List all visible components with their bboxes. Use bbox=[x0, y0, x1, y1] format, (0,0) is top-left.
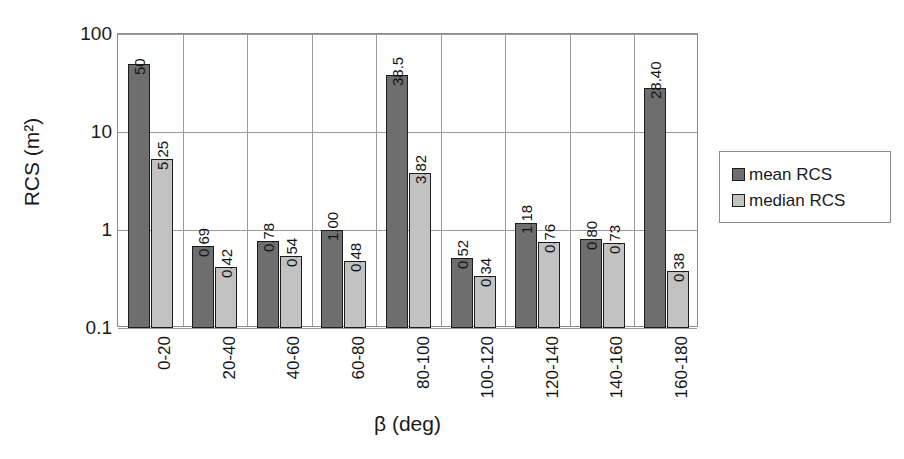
bar-value-label: 0.80 bbox=[584, 221, 599, 250]
legend-swatch-icon bbox=[732, 194, 745, 207]
bar-mean bbox=[257, 241, 279, 328]
bar-value-label: 1.18 bbox=[519, 205, 534, 234]
bar-value-label: 0.52 bbox=[455, 240, 470, 269]
x-axis-tick-label: 80-100 bbox=[415, 336, 432, 389]
legend-item-label: median RCS bbox=[749, 192, 845, 209]
x-axis-tick-label: 20-40 bbox=[221, 336, 238, 379]
bar-mean bbox=[128, 64, 150, 328]
y-axis-tick-label: 1 bbox=[52, 220, 112, 239]
bar-mean bbox=[644, 88, 666, 328]
bar-median bbox=[603, 243, 625, 328]
horizontal-gridline bbox=[118, 328, 697, 329]
bar-value-label: 0.54 bbox=[284, 238, 299, 267]
category-separator-gridline bbox=[441, 34, 442, 326]
category-separator-gridline bbox=[570, 34, 571, 326]
chart-figure: RCS (m²) 1001010.1 505.250.690.420.780.5… bbox=[0, 0, 904, 459]
bar-value-label: 0.38 bbox=[671, 253, 686, 282]
x-axis-tick-label: 100-120 bbox=[479, 336, 496, 398]
bar-value-label: 0.69 bbox=[196, 228, 211, 257]
bar-value-label: 0.48 bbox=[348, 243, 363, 272]
bar-value-label: 38.5 bbox=[390, 56, 405, 85]
chart-legend: mean RCSmedian RCS bbox=[719, 151, 891, 223]
bar-median bbox=[538, 242, 560, 328]
bar-value-label: 28.40 bbox=[648, 61, 663, 99]
bar-value-label: 0.73 bbox=[607, 225, 622, 254]
category-separator-gridline bbox=[247, 34, 248, 326]
horizontal-gridline bbox=[118, 34, 697, 35]
category-separator-gridline bbox=[505, 34, 506, 326]
bar-median bbox=[409, 173, 431, 328]
bar-value-label: 3.82 bbox=[413, 155, 428, 184]
y-axis-tick-label: 10 bbox=[52, 122, 112, 141]
legend-item[interactable]: mean RCS bbox=[732, 161, 882, 187]
plot-area: 505.250.690.420.780.541.000.4838.53.820.… bbox=[117, 33, 698, 327]
x-axis-tick-label: 160-180 bbox=[673, 336, 690, 398]
x-axis-tick-label: 140-160 bbox=[608, 336, 625, 398]
bar-value-label: 0.34 bbox=[478, 258, 493, 287]
bar-value-label: 0.76 bbox=[542, 223, 557, 252]
bar-mean bbox=[386, 75, 408, 328]
bar-value-label: 1.00 bbox=[325, 212, 340, 241]
bar-value-label: 0.42 bbox=[219, 249, 234, 278]
bar-value-label: 0.78 bbox=[261, 222, 276, 251]
x-axis-tick-label: 60-80 bbox=[350, 336, 367, 379]
y-axis-tick-label: 0.1 bbox=[52, 318, 112, 337]
x-axis-tick-label: 120-140 bbox=[544, 336, 561, 398]
category-separator-gridline bbox=[183, 34, 184, 326]
category-separator-gridline bbox=[376, 34, 377, 326]
bar-mean bbox=[515, 223, 537, 328]
bar-value-label: 5.25 bbox=[155, 141, 170, 170]
category-separator-gridline bbox=[634, 34, 635, 326]
legend-swatch-icon bbox=[732, 168, 745, 181]
bar-median bbox=[151, 159, 173, 328]
bar-mean bbox=[192, 246, 214, 328]
category-separator-gridline bbox=[312, 34, 313, 326]
bar-mean bbox=[580, 239, 602, 328]
legend-item[interactable]: median RCS bbox=[732, 187, 882, 213]
bar-value-label: 50 bbox=[132, 58, 147, 75]
y-axis-title: RCS (m²) bbox=[20, 82, 44, 242]
legend-item-label: mean RCS bbox=[749, 166, 832, 183]
x-axis-tick-label: 40-60 bbox=[285, 336, 302, 379]
y-axis-tick-labels: 1001010.1 bbox=[52, 0, 112, 459]
x-axis-tick-label: 0-20 bbox=[156, 336, 173, 370]
y-axis-tick-label: 100 bbox=[52, 24, 112, 43]
bar-mean bbox=[321, 230, 343, 328]
x-axis-title: β (deg) bbox=[117, 412, 698, 436]
